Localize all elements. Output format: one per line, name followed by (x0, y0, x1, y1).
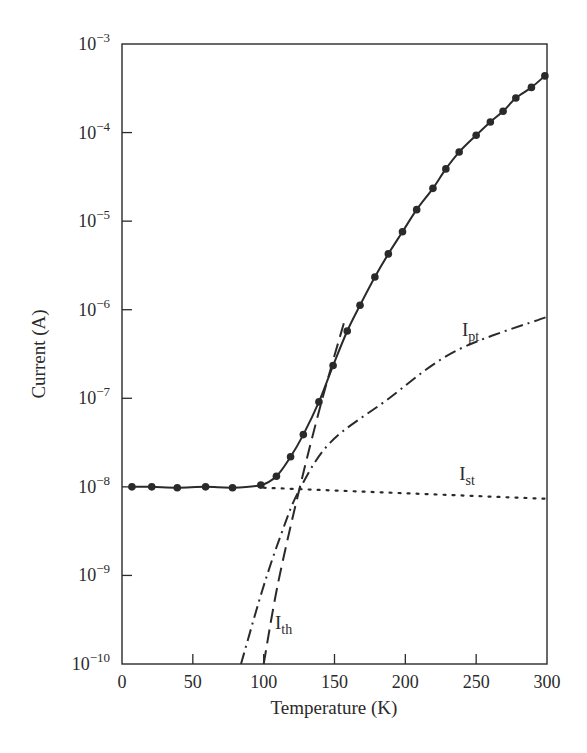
data-point-marker (371, 273, 379, 281)
data-point-marker (399, 228, 407, 236)
series-measured-current-total- (132, 76, 545, 488)
data-point-marker (528, 84, 536, 92)
data-point-marker (385, 250, 393, 258)
current-vs-temperature-chart: 10−1010−910−810−710−610−510−410−3 050100… (0, 0, 587, 753)
data-point-marker (273, 472, 281, 480)
data-point-marker (229, 484, 237, 492)
series-i-pt (241, 317, 547, 664)
y-tick-label: 10−5 (78, 207, 110, 231)
data-point-marker (429, 185, 437, 193)
x-axis-ticks: 050100150200250300 (118, 654, 561, 692)
y-tick-label: 10−9 (78, 561, 110, 585)
y-tick-label: 10−8 (78, 473, 110, 497)
y-tick-label: 10−7 (78, 384, 110, 408)
data-point-marker (173, 484, 181, 492)
data-point-marker (343, 327, 351, 335)
series-label-i-th: Ith (275, 612, 292, 637)
y-tick-label: 10−3 (78, 30, 110, 54)
data-point-marker (472, 131, 480, 139)
data-point-marker (512, 94, 520, 102)
y-tick-label: 10−6 (78, 296, 110, 320)
data-point-marker (499, 108, 507, 116)
x-tick-label: 250 (463, 672, 490, 692)
y-tick-label: 10−4 (78, 119, 110, 143)
y-axis-label: Current (A) (28, 309, 50, 398)
series-label-i-pt: Ipt (462, 319, 479, 344)
x-tick-label: 100 (250, 672, 277, 692)
data-point-marker (413, 206, 421, 214)
x-tick-label: 0 (118, 672, 127, 692)
x-axis-label: Temperature (K) (271, 697, 398, 719)
data-point-marker (487, 118, 495, 126)
data-point-marker (202, 483, 210, 491)
data-point-marker (148, 483, 156, 491)
x-tick-label: 200 (392, 672, 419, 692)
series-label-i-st: Ist (459, 463, 475, 488)
x-tick-label: 300 (534, 672, 561, 692)
data-point-marker (356, 301, 364, 309)
data-point-marker (541, 72, 549, 80)
x-tick-label: 50 (184, 672, 202, 692)
x-tick-label: 150 (321, 672, 348, 692)
y-tick-label: 10−10 (72, 650, 110, 674)
data-point-marker (300, 431, 308, 439)
data-point-marker (442, 165, 450, 173)
data-point-marker (287, 453, 295, 461)
y-axis-ticks: 10−1010−910−810−710−610−510−410−3 (72, 30, 132, 674)
data-point-marker (128, 483, 136, 491)
series-layer (128, 72, 549, 664)
data-point-marker (455, 148, 463, 156)
series-i-st (264, 488, 547, 499)
